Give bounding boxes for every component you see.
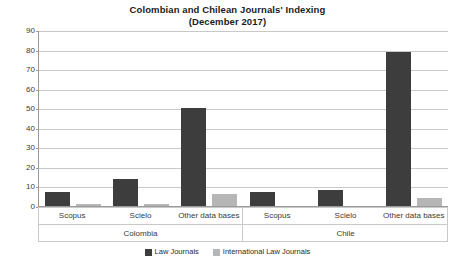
legend-item[interactable]: Law Journals	[145, 247, 199, 257]
bar-group	[312, 31, 380, 206]
chart-legend: Law JournalsInternational Law Journals	[0, 247, 455, 257]
bar	[181, 108, 206, 206]
legend-label: International Law Journals	[223, 247, 311, 257]
plot-area: 9080706050403020100	[38, 31, 448, 207]
bar-group	[244, 31, 312, 206]
chart-subtitle: (December 2017)	[0, 16, 455, 28]
x-axis-group-label: Colombia	[38, 225, 243, 242]
x-axis-tick-label: Scopus	[243, 207, 311, 225]
legend-swatch-icon	[213, 249, 220, 256]
bar	[212, 194, 237, 206]
legend-swatch-icon	[145, 249, 152, 256]
x-axis-tick-label: Other data bases	[175, 207, 243, 225]
bar	[45, 192, 70, 206]
bar-group	[380, 31, 448, 206]
bars-layer	[39, 31, 448, 206]
plot-wrapper: 9080706050403020100	[38, 31, 448, 207]
bar-group	[107, 31, 175, 206]
bar-group	[175, 31, 243, 206]
x-axis-group-labels: ColombiaChile	[38, 225, 448, 242]
bar	[386, 52, 411, 206]
chart-title-block: Colombian and Chilean Journals' Indexing…	[0, 4, 455, 28]
bar-group	[39, 31, 107, 206]
bar	[76, 204, 101, 206]
x-axis-tick-label: Scielo	[311, 207, 379, 225]
x-axis-tick-label: Other data bases	[380, 207, 448, 225]
chart-container: Colombian and Chilean Journals' Indexing…	[0, 0, 455, 269]
bar	[113, 179, 138, 206]
bar	[417, 198, 442, 206]
bar	[144, 204, 169, 206]
x-axis-category-labels: ScopusScieloOther data basesScopusScielo…	[38, 207, 448, 225]
bar	[250, 192, 275, 206]
bar	[318, 190, 343, 206]
x-axis-tick-label: Scielo	[106, 207, 174, 225]
legend-label: Law Journals	[155, 247, 199, 257]
x-axis-group-label: Chile	[243, 225, 448, 242]
chart-title: Colombian and Chilean Journals' Indexing	[0, 4, 455, 16]
x-axis-tick-label: Scopus	[38, 207, 106, 225]
legend-item[interactable]: International Law Journals	[213, 247, 311, 257]
